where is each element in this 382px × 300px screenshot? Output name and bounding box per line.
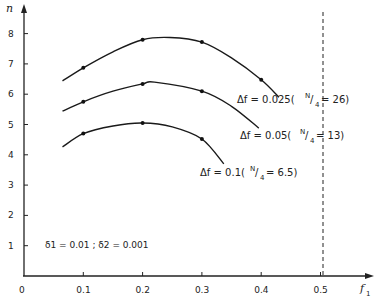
svg-text:Δf = 0.05(: Δf = 0.05( (240, 130, 291, 141)
x-axis-arrow-icon (365, 273, 374, 279)
svg-text:4: 4 (315, 101, 320, 109)
series-line-0 (63, 37, 280, 97)
y-axis-arrow-icon (21, 4, 27, 13)
y-tick-label: 6 (8, 89, 14, 99)
y-tick-label: 8 (8, 29, 14, 39)
svg-text:= 6.5): = 6.5) (266, 167, 297, 178)
data-point-marker (141, 121, 145, 125)
y-tick-label: 4 (8, 150, 14, 160)
series-label-0: Δf = 0.025( N / 4 = 26) (237, 92, 349, 109)
svg-text:/: / (255, 167, 259, 178)
y-tick-label: 1 (8, 241, 14, 251)
data-point-marker (141, 82, 145, 86)
y-tick-label: 5 (8, 120, 14, 130)
svg-text:= 26): = 26) (321, 94, 349, 105)
data-point-marker (200, 40, 204, 44)
x-tick-label: 0.4 (254, 285, 269, 295)
x-tick-label: 0.1 (76, 285, 90, 295)
y-tick-label: 2 (8, 210, 14, 220)
data-point-marker (200, 89, 204, 93)
svg-text:4: 4 (310, 137, 315, 145)
axes (21, 4, 374, 279)
y-tick-label: 3 (8, 180, 14, 190)
x-axis-label: f 1 (359, 282, 370, 298)
data-point-marker (81, 132, 85, 136)
svg-text:/: / (310, 94, 314, 105)
parameters-annotation: δ1 = 0.01 ; δ2 = 0.001 (45, 240, 149, 250)
data-point-marker (141, 38, 145, 42)
svg-text:1: 1 (366, 290, 370, 298)
svg-text:Δf = 0.025(: Δf = 0.025( (237, 94, 295, 105)
y-tick-label: 7 (8, 59, 14, 69)
y-ticks: 12345678 (8, 29, 28, 251)
series-label-2: Δf = 0.1( N / 4 = 6.5) (200, 165, 297, 182)
chart: 12345678 00.10.20.30.40.5 n f 1 δ1 = 0.0… (0, 0, 382, 300)
data-point-marker (259, 78, 263, 82)
series-line-2 (63, 123, 224, 164)
data-point-marker (81, 100, 85, 104)
y-axis-label: n (6, 2, 13, 15)
data-point-marker (200, 137, 204, 141)
data-point-marker (81, 66, 85, 70)
x-tick-label: 0.3 (195, 285, 209, 295)
svg-text:4: 4 (260, 174, 265, 182)
svg-text:= 13): = 13) (316, 130, 344, 141)
svg-text:f: f (359, 282, 366, 295)
x-tick-label: 0.5 (314, 285, 328, 295)
svg-text:/: / (305, 130, 309, 141)
series-label-1: Δf = 0.05( N / 4 = 13) (240, 128, 344, 145)
svg-text:Δf = 0.1(: Δf = 0.1( (200, 167, 245, 178)
svg-text:δ1 = 0.01 ; δ2 = 0.001: δ1 = 0.01 ; δ2 = 0.001 (45, 240, 149, 250)
x-tick-label: 0.2 (136, 285, 150, 295)
x-tick-label: 0 (19, 285, 25, 295)
series-line-1 (63, 82, 259, 128)
